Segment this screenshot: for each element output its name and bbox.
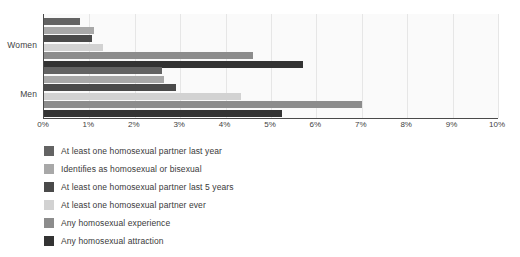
- legend-label: Any homosexual experience: [61, 218, 170, 228]
- legend-item[interactable]: Any homosexual experience: [44, 214, 484, 232]
- legend-item[interactable]: At least one homosexual partner last yea…: [44, 142, 484, 160]
- plot-wrapper: Women Men 0%1%2%3%4%5%6%7%8%9%10%: [0, 0, 520, 136]
- bar: [44, 93, 241, 100]
- x-axis-tick-label: 7%: [355, 120, 367, 129]
- legend-swatch-icon: [44, 236, 54, 246]
- x-axis-tick-label: 9%: [446, 120, 458, 129]
- y-axis-label-women: Women: [7, 40, 37, 50]
- plot-area: [43, 14, 498, 119]
- x-axis-tick-label: 8%: [400, 120, 412, 129]
- bar: [44, 52, 253, 59]
- legend-label: Identifies as homosexual or bisexual: [61, 164, 202, 174]
- legend-swatch-icon: [44, 164, 54, 174]
- legend-swatch-icon: [44, 200, 54, 210]
- legend-label: At least one homosexual partner ever: [61, 200, 206, 210]
- bar: [44, 110, 282, 117]
- bar: [44, 76, 164, 83]
- y-axis-label-men: Men: [20, 89, 37, 99]
- legend-item[interactable]: Any homosexual attraction: [44, 232, 484, 250]
- legend-item[interactable]: At least one homosexual partner last 5 y…: [44, 178, 484, 196]
- bar: [44, 84, 176, 91]
- x-axis-tick-label: 1%: [83, 120, 95, 129]
- gridline: [498, 14, 499, 118]
- legend-swatch-icon: [44, 146, 54, 156]
- bars-layer: [44, 14, 498, 118]
- x-axis-tick-label: 10%: [489, 120, 505, 129]
- bar: [44, 44, 103, 51]
- bar: [44, 27, 94, 34]
- legend-item[interactable]: At least one homosexual partner ever: [44, 196, 484, 214]
- legend-label: At least one homosexual partner last yea…: [61, 146, 222, 156]
- chart-legend: At least one homosexual partner last yea…: [44, 142, 484, 250]
- x-axis-tick-label: 2%: [128, 120, 140, 129]
- x-axis-ticks: 0%1%2%3%4%5%6%7%8%9%10%: [43, 120, 497, 134]
- bar: [44, 18, 80, 25]
- bar: [44, 67, 162, 74]
- legend-label: Any homosexual attraction: [61, 236, 164, 246]
- legend-swatch-icon: [44, 182, 54, 192]
- y-axis-group-labels: Women Men: [0, 14, 40, 118]
- legend-item[interactable]: Identifies as homosexual or bisexual: [44, 160, 484, 178]
- bar: [44, 35, 92, 42]
- bar-chart: Women Men 0%1%2%3%4%5%6%7%8%9%10% At lea…: [0, 0, 520, 257]
- x-axis-tick-label: 0%: [37, 120, 49, 129]
- x-axis-tick-label: 6%: [310, 120, 322, 129]
- legend-swatch-icon: [44, 218, 54, 228]
- x-axis-tick-label: 3%: [173, 120, 185, 129]
- x-axis-tick-label: 5%: [264, 120, 276, 129]
- x-axis-tick-label: 4%: [219, 120, 231, 129]
- legend-label: At least one homosexual partner last 5 y…: [61, 182, 234, 192]
- bar: [44, 101, 362, 108]
